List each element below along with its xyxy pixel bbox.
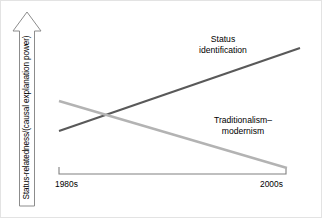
series-label-traditionalism-modernism: Traditionalism– modernism bbox=[189, 115, 297, 136]
x-tick-label-2000s: 2000s bbox=[260, 179, 283, 189]
x-tick-label-1980s: 1980s bbox=[55, 179, 78, 189]
chart-figure: Status-relatedness/(causal explanation p… bbox=[0, 0, 322, 218]
x-axis-line bbox=[59, 167, 286, 174]
y-axis-arrow-shape bbox=[13, 12, 41, 206]
series-label-status-identification: Status identification bbox=[173, 34, 273, 55]
